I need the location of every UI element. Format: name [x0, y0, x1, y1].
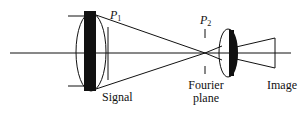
p2-label: P2 — [200, 14, 211, 30]
lens-2-bar — [229, 30, 234, 76]
ray-top-3 — [236, 38, 275, 47]
image-label: Image — [267, 79, 297, 91]
signal-mask-icon — [84, 11, 96, 91]
p1-label: P1 — [110, 9, 121, 25]
fourier-label-line2: plane — [183, 92, 229, 104]
p1-subscript: 1 — [117, 14, 121, 23]
fourier-label-line1: Fourier — [183, 79, 229, 91]
optical-diagram — [0, 0, 303, 115]
ray-bottom-3 — [236, 59, 275, 68]
fourier-plane-label: Fourier plane — [183, 79, 229, 104]
signal-label: Signal — [102, 91, 133, 103]
p2-subscript: 2 — [207, 19, 211, 28]
